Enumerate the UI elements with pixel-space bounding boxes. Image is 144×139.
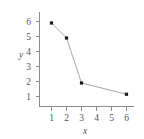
- data-point: [125, 93, 128, 96]
- x-tick-label: 2: [64, 113, 69, 123]
- x-tick-label: 4: [94, 113, 99, 123]
- y-tick-label: 2: [26, 77, 31, 87]
- data-point: [65, 36, 68, 39]
- x-axis-title: x: [82, 126, 88, 136]
- y-tick-label: 4: [26, 47, 31, 57]
- data-point: [80, 81, 83, 84]
- y-tick-label: 5: [26, 32, 31, 42]
- y-axis-title: y: [18, 50, 24, 60]
- y-tick-label: 1: [26, 92, 31, 102]
- x-tick-label: 6: [124, 113, 129, 123]
- data-point: [50, 21, 53, 24]
- x-tick-label: 5: [109, 113, 114, 123]
- chart-figure: 6 5 4 3 2 1 1 2 3 4 5 6 y x: [0, 0, 144, 139]
- y-axis-ticks: [36, 22, 40, 97]
- y-tick-label: 3: [26, 62, 31, 72]
- line-chart: 6 5 4 3 2 1 1 2 3 4 5 6 y x: [0, 0, 144, 139]
- data-line: [52, 23, 127, 94]
- x-axis-ticks: [52, 107, 127, 111]
- y-tick-label: 6: [26, 17, 31, 27]
- x-tick-label: 3: [79, 113, 84, 123]
- x-tick-label: 1: [49, 113, 54, 123]
